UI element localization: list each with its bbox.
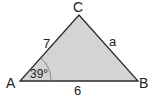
vertex-label-c: C [73, 0, 83, 15]
triangle-diagram: A B C 7 a 6 39° [0, 0, 154, 98]
side-label-ab: 6 [74, 83, 81, 98]
side-label-cb: a [109, 34, 117, 49]
vertex-label-a: A [6, 75, 16, 91]
angle-label-a: 39° [30, 67, 48, 81]
vertex-label-b: B [139, 75, 148, 91]
side-label-ac: 7 [43, 36, 50, 51]
